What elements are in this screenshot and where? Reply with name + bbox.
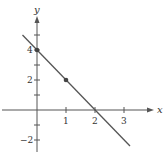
y-axis-label: y (33, 4, 40, 15)
line-chart: x y 1 2 3 −2 2 4 (0, 0, 166, 155)
x-tick-label: 3 (121, 116, 127, 126)
y-axis: y (33, 4, 40, 152)
y-tick-label: 2 (27, 75, 33, 85)
x-axis: x (2, 104, 163, 115)
y-tick-label: 4 (27, 45, 33, 55)
x-axis-label: x (157, 104, 163, 115)
data-point (64, 78, 69, 83)
x-tick-label: 2 (92, 116, 98, 126)
data-line (23, 35, 131, 146)
y-axis-arrow-icon (35, 16, 40, 23)
y-tick-label: −2 (20, 135, 33, 145)
x-tick-label: 1 (63, 116, 69, 126)
x-axis-arrow-icon (147, 108, 154, 113)
data-point (35, 48, 40, 53)
